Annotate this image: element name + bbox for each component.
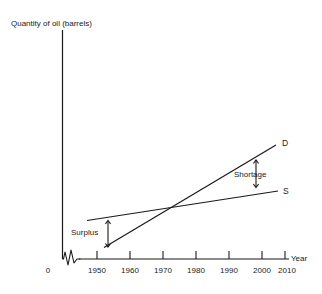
x-tick-label-1960: 1960 — [121, 266, 139, 275]
x-tick-label-1950: 1950 — [88, 266, 106, 275]
surplus-annotation-label: Surplus — [71, 229, 98, 237]
shortage-annotation-label: Shortage — [234, 171, 266, 179]
y-axis-label: Quantity of oil (barrels) — [11, 20, 92, 28]
surplus-arrow — [105, 221, 110, 248]
oil-supply-demand-chart: Quantity of oil (barrels) Year 0 1950 19… — [0, 0, 322, 294]
x-tick-label-1980: 1980 — [187, 266, 205, 275]
chart-plot-area — [0, 0, 322, 294]
x-tick-label-1970: 1970 — [154, 266, 172, 275]
axis-break-icon — [64, 250, 81, 265]
x-tick-label-2000: 2000 — [253, 266, 271, 275]
x-tick-label-1990: 1990 — [220, 266, 238, 275]
origin-tick-label: 0 — [46, 266, 50, 275]
demand-curve-line — [104, 145, 276, 248]
demand-curve-label: D — [282, 139, 288, 148]
supply-curve-label: S — [283, 187, 289, 196]
x-axis-ticks — [97, 251, 285, 259]
x-tick-label-2010: 2010 — [278, 266, 296, 275]
x-axis-label: Year — [291, 255, 307, 263]
supply-curve-line — [87, 191, 278, 221]
